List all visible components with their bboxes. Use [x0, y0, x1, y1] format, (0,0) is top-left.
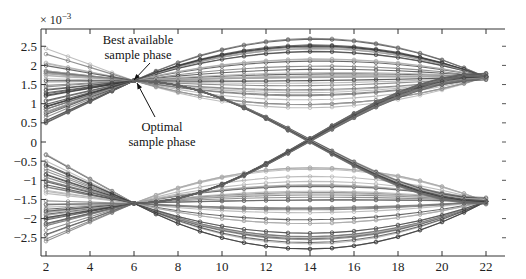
x-tick-label: 4	[87, 259, 94, 274]
y-tick-label: 2.5	[21, 39, 37, 54]
annotation-best-available-line2: sample phase	[105, 48, 172, 62]
x-tick-label: 8	[175, 259, 182, 274]
y-multiplier-label: × 10−3	[40, 11, 72, 27]
x-tick-label: 18	[392, 259, 405, 274]
y-tick-label: 2	[31, 58, 38, 73]
annotation-optimal-line2: sample phase	[129, 135, 196, 149]
annotation-best-available-line1: Best available	[103, 33, 174, 47]
y-tick-label: −2	[23, 211, 37, 226]
x-tick-label: 10	[216, 259, 229, 274]
x-tick-label: 14	[304, 259, 318, 274]
y-tick-label: −1	[23, 173, 37, 188]
x-tick-label: 22	[480, 259, 493, 274]
y-tick-label: 1.5	[21, 77, 37, 92]
eye-diagram-chart: 2468101214161820222.521.510.50−0.5−1−1.5…	[0, 0, 526, 279]
annotation-optimal-line1: Optimal	[142, 120, 183, 134]
annotations: Best availablesample phaseOptimalsample …	[103, 33, 196, 149]
y-tick-label: 1	[31, 96, 38, 111]
x-tick-label: 20	[436, 259, 449, 274]
y-tick-label: 0.5	[21, 115, 37, 130]
y-tick-label: −0.5	[13, 154, 37, 169]
signal-traces	[44, 37, 488, 251]
y-tick-label: 0	[31, 135, 38, 150]
x-tick-label: 2	[43, 259, 50, 274]
y-tick-label: −1.5	[13, 192, 37, 207]
x-tick-label: 6	[131, 259, 138, 274]
y-tick-label: −2.5	[13, 230, 37, 245]
x-tick-label: 12	[260, 259, 273, 274]
x-tick-label: 16	[348, 259, 362, 274]
